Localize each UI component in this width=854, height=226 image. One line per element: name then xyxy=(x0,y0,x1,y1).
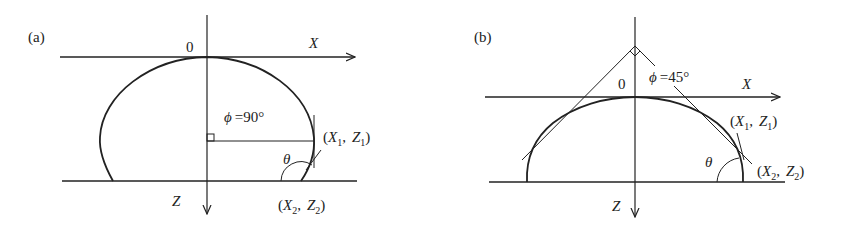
panel-a-label: (a) xyxy=(28,29,45,46)
point-x1-z1-label: (X1,Z1) xyxy=(323,129,370,148)
x-axis-label: X xyxy=(741,76,752,92)
theta-label: θ xyxy=(283,151,291,167)
origin-label: 0 xyxy=(186,39,194,55)
origin-label: 0 xyxy=(618,76,626,92)
point-x1-z1-label: (X1,Z1) xyxy=(730,113,777,132)
point-x2-z2-label: (X2,Z2) xyxy=(757,163,804,182)
right-angle-marker xyxy=(207,134,214,141)
z-axis-label: Z xyxy=(172,193,181,209)
phi-label: ϕ=90° xyxy=(224,109,264,125)
point-x2-z2-label: (X2,Z2) xyxy=(278,197,325,216)
phi-label: ϕ=45° xyxy=(649,69,689,85)
tangent-left xyxy=(522,46,635,160)
z-axis-label: Z xyxy=(612,198,621,214)
theta-arc xyxy=(717,158,739,182)
panel-a: (a) 0 X Z ϕ=90° θ (X1,Z1) (X2,Z2) xyxy=(28,15,370,216)
droplet-diagram: (a) 0 X Z ϕ=90° θ (X1,Z1) (X2,Z2) xyxy=(0,0,854,226)
x-axis-label: X xyxy=(308,35,319,51)
theta-label: θ xyxy=(705,154,713,170)
panel-b: (b) 0 X Z ϕ=45° θ (X1,Z1) (X2,Z2) xyxy=(474,17,804,217)
tangent-right-upper xyxy=(635,46,655,66)
panel-b-label: (b) xyxy=(474,29,492,46)
